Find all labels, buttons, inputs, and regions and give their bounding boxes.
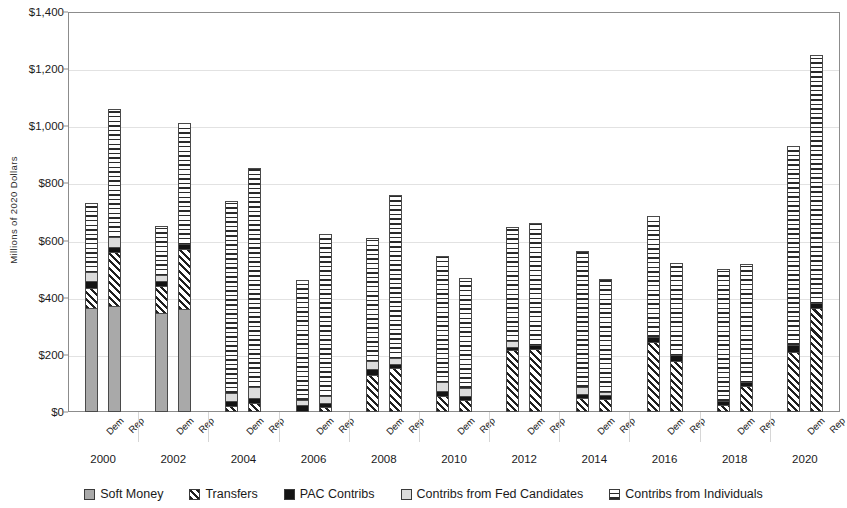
x-axis-group-separator: [419, 412, 420, 442]
legend-swatch-icon: [401, 489, 412, 500]
y-axis-tick-label: $0: [0, 406, 64, 418]
x-axis-year-label: 2004: [231, 453, 257, 465]
x-axis-label-dem: Dem: [525, 415, 547, 437]
x-axis-label-dem: Dem: [103, 415, 125, 437]
x-axis-label-dem: Dem: [665, 415, 687, 437]
legend-item-contribs-from-fed-candidates[interactable]: Contribs from Fed Candidates: [401, 487, 584, 501]
x-axis-label-dem: Dem: [735, 415, 757, 437]
x-axis-year-label: 2010: [441, 453, 467, 465]
legend-label: Transfers: [205, 487, 257, 501]
x-axis-label-rep: Rep: [196, 415, 216, 435]
x-axis-year-label: 2002: [160, 453, 186, 465]
x-axis-year-label: 2006: [301, 453, 327, 465]
legend-item-soft-money[interactable]: Soft Money: [84, 487, 163, 501]
plot-area: [68, 12, 840, 412]
legend-swatch-icon: [84, 489, 95, 500]
legend-item-contribs-from-individuals[interactable]: Contribs from Individuals: [609, 487, 763, 501]
legend-swatch-icon: [284, 489, 295, 500]
gridline: [69, 127, 839, 128]
legend-item-pac-contribs[interactable]: PAC Contribs: [284, 487, 375, 501]
x-axis-group-separator: [629, 412, 630, 442]
gridline: [69, 242, 839, 243]
x-axis-label-dem: Dem: [244, 415, 266, 437]
x-axis-group-separator: [559, 412, 560, 442]
x-axis-label-dem: Dem: [454, 415, 476, 437]
x-axis-label-rep: Rep: [266, 415, 286, 435]
legend-item-transfers[interactable]: Transfers: [189, 487, 257, 501]
y-axis-title-text: Millions of 2020 Dollars: [8, 156, 19, 264]
x-axis-label-dem: Dem: [384, 415, 406, 437]
x-axis-group-separator: [770, 412, 771, 442]
gridline: [69, 70, 839, 71]
gridline: [69, 299, 839, 300]
x-axis-label-rep: Rep: [687, 415, 707, 435]
y-axis-tick-label: $400: [0, 292, 64, 304]
x-axis-label-rep: Rep: [617, 415, 637, 435]
legend: Soft MoneyTransfersPAC ContribsContribs …: [0, 482, 847, 506]
x-axis-year-label: 2000: [90, 453, 116, 465]
y-axis-tick-label: $200: [0, 349, 64, 361]
x-axis-year-label: 2020: [792, 453, 818, 465]
x-axis-group-separator: [349, 412, 350, 442]
gridline: [69, 356, 839, 357]
x-axis-label-rep: Rep: [336, 415, 356, 435]
y-axis-tick-label: $1,200: [0, 63, 64, 75]
x-axis-label-rep: Rep: [757, 415, 777, 435]
gridline: [69, 184, 839, 185]
x-axis-year-label: 2014: [582, 453, 608, 465]
legend-swatch-icon: [189, 489, 200, 500]
x-axis-label-rep: Rep: [126, 415, 146, 435]
stacked-bar-chart: Millions of 2020 Dollars $0$200$400$600$…: [0, 0, 847, 508]
y-axis-tick-label: $1,000: [0, 120, 64, 132]
x-axis-year-label: 2012: [511, 453, 537, 465]
x-axis-label-rep: Rep: [547, 415, 567, 435]
y-axis-tick-label: $1,400: [0, 6, 64, 18]
x-axis-label-dem: Dem: [805, 415, 827, 437]
x-axis-label-dem: Dem: [595, 415, 617, 437]
legend-label: Soft Money: [100, 487, 163, 501]
x-axis-label-rep: Rep: [828, 415, 847, 435]
x-axis-label-dem: Dem: [314, 415, 336, 437]
x-axis: DemRep2000DemRep2002DemRep2004DemRep2006…: [68, 412, 840, 476]
x-axis-year-label: 2016: [652, 453, 678, 465]
x-axis-year-label: 2018: [722, 453, 748, 465]
x-axis-year-label: 2008: [371, 453, 397, 465]
legend-label: Contribs from Individuals: [625, 487, 763, 501]
x-axis-group-separator: [489, 412, 490, 442]
legend-label: Contribs from Fed Candidates: [417, 487, 584, 501]
x-axis-label-dem: Dem: [174, 415, 196, 437]
x-axis-label-rep: Rep: [477, 415, 497, 435]
x-axis-group-separator: [700, 412, 701, 442]
legend-swatch-icon: [609, 489, 620, 500]
y-axis-tick-label: $800: [0, 177, 64, 189]
legend-label: PAC Contribs: [300, 487, 375, 501]
x-axis-group-separator: [279, 412, 280, 442]
x-axis-label-rep: Rep: [406, 415, 426, 435]
x-axis-group-separator: [138, 412, 139, 442]
x-axis-group-separator: [208, 412, 209, 442]
y-axis-tick-label: $600: [0, 235, 64, 247]
